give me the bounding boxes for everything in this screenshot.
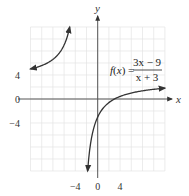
formula-numerator: 3x − 9 — [133, 56, 162, 68]
formula-lhs: f(x) = — [110, 64, 134, 77]
y-tick-label: 4 — [15, 70, 20, 81]
function-curve — [88, 88, 165, 171]
x-axis-label: x — [175, 93, 181, 105]
x-tick-label: 0 — [95, 181, 100, 192]
axes — [18, 16, 172, 178]
y-tick-label: −4 — [9, 118, 20, 129]
x-tick-label: 4 — [118, 181, 123, 192]
y-axis-label: y — [94, 2, 100, 14]
y-tick-label: 0 — [15, 94, 20, 105]
formula-denominator: x + 3 — [136, 71, 159, 83]
function-formula: f(x) = 3x − 9 x + 3 — [110, 56, 162, 83]
function-graph: −40440−4 y x f(x) = 3x − 9 x + 3 — [0, 0, 189, 196]
x-tick-label: −4 — [70, 181, 81, 192]
tick-labels: −40440−4 — [9, 70, 122, 193]
